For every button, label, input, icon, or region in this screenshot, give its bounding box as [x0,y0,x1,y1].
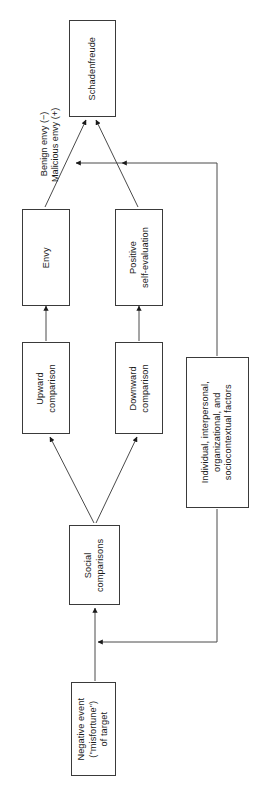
node-downward-comparison[interactable]: Downwardcomparison [115,342,163,434]
node-schadenfreude-label: Schadenfreude [87,37,99,101]
edge-label-benign-envy-text: Benign envy (−) [39,112,49,177]
node-negative-event-label: Negative event("misfortune")of target [76,698,111,761]
edge-label-malicious-envy-text: Malicious envy (+) [50,108,60,182]
node-upward-comparison[interactable]: Upwardcomparison [22,342,70,434]
node-moderators-label: Individual, interpersonal,organizational… [200,381,235,483]
edge-social-comparisons-to-downward-comparison [96,437,137,523]
node-envy[interactable]: Envy [22,209,70,306]
node-moderators[interactable]: Individual, interpersonal,organizational… [186,357,249,508]
node-positive-self-evaluation[interactable]: Positiveself-evaluation [115,209,163,306]
node-upward-comparison-label: Upwardcomparison [35,364,58,413]
node-downward-comparison-label: Downwardcomparison [128,364,151,413]
node-positive-self-evaluation-label: Positiveself-evaluation [128,227,151,288]
node-social-comparisons[interactable]: Socialcomparisons [69,525,120,605]
diagram-canvas: Schadenfreude Envy Positiveself-evaluati… [0,0,257,800]
edge-social-comparisons-to-upward-comparison [50,437,94,523]
node-negative-event[interactable]: Negative event("misfortune")of target [71,682,116,776]
node-schadenfreude[interactable]: Schadenfreude [69,20,116,117]
edge-label-malicious-envy: Malicious envy (+) [50,99,62,191]
node-envy-label: Envy [40,247,52,268]
node-social-comparisons-label: Socialcomparisons [83,538,106,591]
